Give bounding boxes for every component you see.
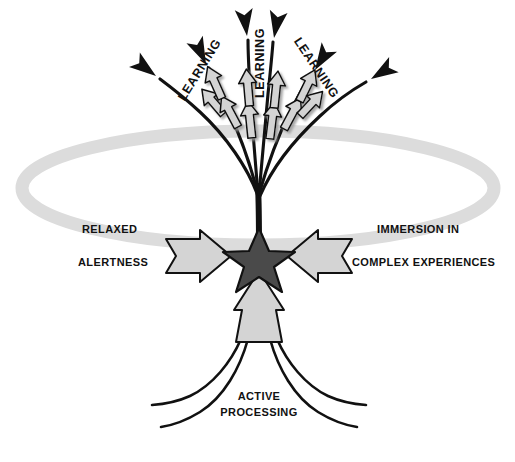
label-active-line1: ACTIVE <box>238 390 281 402</box>
label-immersion-line1: IMMERSION IN <box>377 223 459 235</box>
tail-left-outer <box>152 339 241 405</box>
label-relaxed-line1: RELAXED <box>82 223 137 235</box>
label-learning-center: LEARNING <box>253 28 267 98</box>
label-learning-right: LEARNING <box>291 35 342 101</box>
bottom-arrow-group <box>152 271 366 427</box>
tail-right-outer <box>277 339 366 405</box>
label-immersion-line2: COMPLEX EXPERIENCES <box>352 256 495 268</box>
arrowhead-far-left <box>129 53 161 84</box>
label-active-line2: PROCESSING <box>220 406 297 418</box>
brain-based-learning-diagram: RELAXED ALERTNESS IMMERSION IN COMPLEX E… <box>0 0 515 462</box>
diagram-canvas: RELAXED ALERTNESS IMMERSION IN COMPLEX E… <box>0 0 515 462</box>
arrowhead-center-right <box>265 10 287 40</box>
arrowhead-far-right <box>366 57 398 87</box>
label-relaxed-line2: ALERTNESS <box>78 256 148 268</box>
